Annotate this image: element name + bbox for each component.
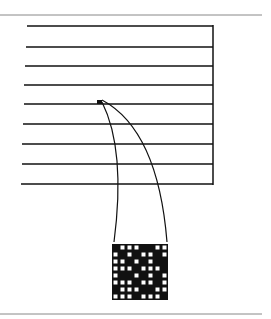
zoom-connector-left [102, 102, 118, 242]
grid-cell [121, 281, 125, 285]
grid-cell [142, 253, 146, 257]
grid-cell [156, 246, 160, 250]
magnified-pixel-grid [112, 244, 168, 300]
grid-cell [114, 295, 118, 299]
grid-cell [114, 267, 118, 271]
grid-cell [163, 274, 167, 278]
grid-cell [128, 253, 132, 257]
grid-cell [128, 246, 132, 250]
grid-cell [121, 267, 125, 271]
scanline-diagram [0, 0, 271, 319]
grid-cell [163, 253, 167, 257]
grid-cell [135, 274, 139, 278]
grid-cell [149, 274, 153, 278]
zoom-connector-right [102, 100, 167, 242]
grid-cell [135, 246, 139, 250]
grid-cell [142, 267, 146, 271]
grid-cell [121, 295, 125, 299]
grid-cell [121, 288, 125, 292]
grid-cell [114, 260, 118, 264]
grid-cell [149, 267, 153, 271]
grid-cell [156, 288, 160, 292]
grid-background [112, 244, 168, 300]
grid-cell [142, 295, 146, 299]
grid-cell [128, 267, 132, 271]
grid-cell [163, 281, 167, 285]
grid-cell [135, 260, 139, 264]
grid-cell [121, 246, 125, 250]
grid-cell [121, 260, 125, 264]
highlight-pixel [97, 100, 102, 104]
grid-cell [156, 267, 160, 271]
grid-cell [114, 274, 118, 278]
grid-cell [163, 288, 167, 292]
grid-cell [149, 295, 153, 299]
grid-cell [128, 281, 132, 285]
grid-cell [128, 288, 132, 292]
grid-cell [156, 295, 160, 299]
grid-cell [149, 253, 153, 257]
grid-cell [114, 253, 118, 257]
grid-cell [142, 281, 146, 285]
grid-cell [149, 281, 153, 285]
grid-cell [114, 281, 118, 285]
grid-cell [135, 288, 139, 292]
grid-cell [163, 246, 167, 250]
grid-cell [149, 260, 153, 264]
grid-cell [128, 295, 132, 299]
